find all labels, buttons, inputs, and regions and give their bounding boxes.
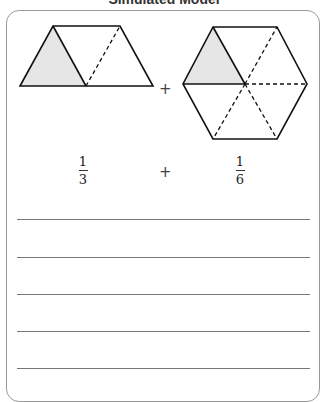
answer-line[interactable] [17,294,310,295]
fraction-bar [236,170,245,171]
denominator: 6 [236,173,244,187]
shaded-third [20,26,86,86]
expression-plus-sign: + [159,163,172,181]
model-plus-sign: + [159,80,172,98]
answer-line[interactable] [17,257,310,258]
hexagon-model [183,27,307,139]
shaded-sixth [183,27,245,84]
numerator: 1 [236,155,244,169]
numerator: 1 [79,155,87,169]
trapezoid-model [20,26,153,86]
denominator: 3 [79,173,87,187]
fraction-one-sixth: 1 6 [233,155,247,187]
fraction-bar [79,170,88,171]
answer-line[interactable] [17,219,310,220]
answer-line[interactable] [17,368,310,369]
answer-line[interactable] [17,331,310,332]
fraction-one-third: 1 3 [76,155,90,187]
